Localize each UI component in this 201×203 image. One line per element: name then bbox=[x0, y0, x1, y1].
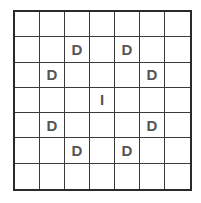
grid-cell-r5-c4[interactable]: D bbox=[115, 138, 140, 163]
grid-cell-r0-c1[interactable] bbox=[40, 12, 65, 37]
grid-cell-r5-c1[interactable] bbox=[40, 138, 65, 163]
grid-cell-r6-c0[interactable] bbox=[15, 164, 40, 189]
grid-cell-r2-c5[interactable]: D bbox=[140, 63, 165, 88]
grid-cell-r2-c0[interactable] bbox=[15, 63, 40, 88]
grid-cell-r0-c4[interactable] bbox=[115, 12, 140, 37]
grid-cell-r3-c0[interactable] bbox=[15, 88, 40, 113]
grid-cell-r5-c3[interactable] bbox=[90, 138, 115, 163]
grid-cell-r3-c2[interactable] bbox=[65, 88, 90, 113]
grid-cell-r4-c5[interactable]: D bbox=[140, 113, 165, 138]
grid-cell-r5-c2[interactable]: D bbox=[65, 138, 90, 163]
grid-cell-r0-c6[interactable] bbox=[165, 12, 190, 37]
grid-cell-r6-c1[interactable] bbox=[40, 164, 65, 189]
grid-cell-r1-c2[interactable]: D bbox=[65, 37, 90, 62]
grid-cell-r1-c6[interactable] bbox=[165, 37, 190, 62]
grid-cell-r1-c4[interactable]: D bbox=[115, 37, 140, 62]
grid-cell-r3-c3[interactable]: I bbox=[90, 88, 115, 113]
grid-cell-r1-c1[interactable] bbox=[40, 37, 65, 62]
grid-cell-r2-c2[interactable] bbox=[65, 63, 90, 88]
grid-cell-r5-c6[interactable] bbox=[165, 138, 190, 163]
grid-cell-r1-c3[interactable] bbox=[90, 37, 115, 62]
grid-cell-r2-c4[interactable] bbox=[115, 63, 140, 88]
grid-cell-r0-c5[interactable] bbox=[140, 12, 165, 37]
grid-cell-r6-c2[interactable] bbox=[65, 164, 90, 189]
grid-cell-r0-c2[interactable] bbox=[65, 12, 90, 37]
puzzle-grid: DDDDIDDDD bbox=[13, 10, 192, 191]
grid-cell-r2-c6[interactable] bbox=[165, 63, 190, 88]
grid-cell-r3-c1[interactable] bbox=[40, 88, 65, 113]
grid-cell-r5-c5[interactable] bbox=[140, 138, 165, 163]
grid-cell-r3-c5[interactable] bbox=[140, 88, 165, 113]
grid-cell-r6-c6[interactable] bbox=[165, 164, 190, 189]
grid-cell-r2-c3[interactable] bbox=[90, 63, 115, 88]
grid-cell-r1-c5[interactable] bbox=[140, 37, 165, 62]
grid-cell-r3-c6[interactable] bbox=[165, 88, 190, 113]
grid-cell-r4-c2[interactable] bbox=[65, 113, 90, 138]
grid-cell-r5-c0[interactable] bbox=[15, 138, 40, 163]
grid-cell-r4-c4[interactable] bbox=[115, 113, 140, 138]
grid-cell-r6-c3[interactable] bbox=[90, 164, 115, 189]
grid-cell-r4-c0[interactable] bbox=[15, 113, 40, 138]
grid-cell-r2-c1[interactable]: D bbox=[40, 63, 65, 88]
grid-cell-r0-c3[interactable] bbox=[90, 12, 115, 37]
grid-cell-r6-c4[interactable] bbox=[115, 164, 140, 189]
grid-cell-r6-c5[interactable] bbox=[140, 164, 165, 189]
grid-cell-r4-c6[interactable] bbox=[165, 113, 190, 138]
grid-cell-r4-c3[interactable] bbox=[90, 113, 115, 138]
grid-cell-r4-c1[interactable]: D bbox=[40, 113, 65, 138]
grid-cell-r3-c4[interactable] bbox=[115, 88, 140, 113]
grid-cell-r0-c0[interactable] bbox=[15, 12, 40, 37]
grid-cell-r1-c0[interactable] bbox=[15, 37, 40, 62]
